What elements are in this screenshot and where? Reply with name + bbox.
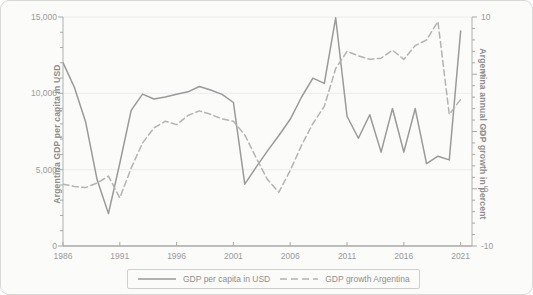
x-tick-label: 2006 bbox=[270, 251, 310, 261]
y-tick-label-left: 10,000 bbox=[9, 88, 57, 98]
x-tick-label: 1996 bbox=[157, 251, 197, 261]
y-tick-label-right: 10 bbox=[481, 12, 511, 22]
x-tick-label: 2011 bbox=[327, 251, 367, 261]
chart-figure: Argentina GDP per capita in USD Argentin… bbox=[0, 0, 533, 295]
y-tick-label-left: 0 bbox=[9, 241, 57, 251]
x-tick-label: 1991 bbox=[100, 251, 140, 261]
x-tick-label: 2001 bbox=[213, 251, 253, 261]
y-tick-label-right: 5 bbox=[481, 69, 511, 79]
y-tick-label-right: -10 bbox=[481, 241, 511, 251]
series-line-1 bbox=[63, 18, 461, 214]
legend-entry-gdp-per-capita: GDP per capita in USD bbox=[137, 274, 270, 284]
y-tick-label-left: 15,000 bbox=[9, 12, 57, 22]
y-tick-label-right: -5 bbox=[481, 184, 511, 194]
legend-label-gdp-per-capita: GDP per capita in USD bbox=[183, 274, 270, 284]
legend-swatch-dashed-icon bbox=[279, 274, 319, 284]
y-tick-label-right: 0 bbox=[481, 127, 511, 137]
x-tick-label: 2021 bbox=[441, 251, 481, 261]
legend-entry-gdp-growth: GDP growth Argentina bbox=[279, 274, 409, 284]
legend-label-gdp-growth: GDP growth Argentina bbox=[325, 274, 409, 284]
x-tick-label: 2016 bbox=[384, 251, 424, 261]
legend-swatch-solid-icon bbox=[137, 274, 177, 284]
series-line-2 bbox=[63, 22, 461, 198]
y-tick-label-left: 5,000 bbox=[9, 165, 57, 175]
x-tick-label: 1986 bbox=[43, 251, 83, 261]
chart-legend: GDP per capita in USD GDP growth Argenti… bbox=[127, 269, 420, 289]
